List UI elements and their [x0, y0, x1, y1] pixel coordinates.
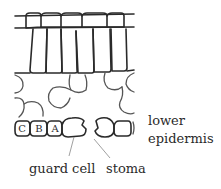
label-guard-cell: guard cell [29, 162, 95, 176]
label-stoma: stoma [106, 162, 146, 176]
label-lower-epidermis-line1: lower [148, 114, 185, 128]
spongy-mesophyll [15, 73, 134, 117]
cell-label-a: A [49, 124, 61, 134]
guard-cell-leader-line [69, 137, 74, 156]
cell-label-b: B [33, 124, 45, 134]
palisade-layer [15, 29, 134, 73]
leaf-cross-section-diagram: C B A lower epidermis guard cell stoma [0, 0, 221, 189]
label-lower-epidermis-line2: epidermis [148, 132, 214, 146]
cell-label-c: C [16, 124, 28, 134]
stoma-leader-line [94, 139, 110, 158]
upper-epidermis [15, 13, 134, 28]
